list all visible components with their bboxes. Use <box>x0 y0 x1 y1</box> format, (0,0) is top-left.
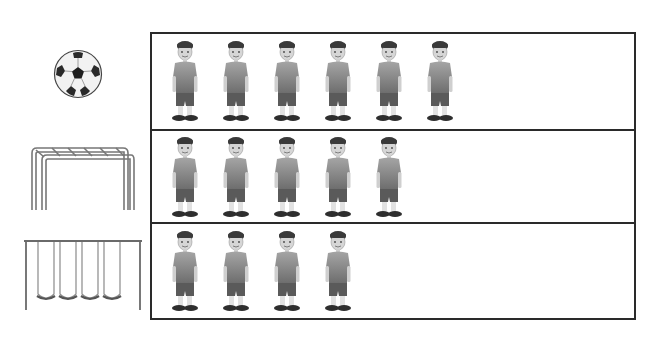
row-label: Swings <box>152 224 153 225</box>
boy-figure-icon <box>271 39 303 125</box>
boy-figure-icon <box>169 39 201 125</box>
boy-figure-icon <box>169 135 201 221</box>
boy-figure-icon <box>220 39 252 125</box>
row-label: Monkey bars <box>152 131 153 132</box>
pictograph-table: Soccer ball Monkey bars Swings <box>150 32 636 320</box>
boy-figure-icon <box>424 39 456 125</box>
boy-figure-icon <box>322 39 354 125</box>
boy-figure-icon <box>322 229 354 315</box>
boy-figure-icon <box>220 135 252 221</box>
boy-figure-icon <box>169 229 201 315</box>
boy-figure-icon <box>373 39 405 125</box>
boy-figure-icon <box>373 135 405 221</box>
boy-figure-icon <box>271 229 303 315</box>
soccer-ball-icon <box>53 49 103 99</box>
boy-figure-icon <box>220 229 252 315</box>
row-monkey-bars: Monkey bars <box>152 129 634 222</box>
monkey-bars-icon <box>28 144 136 214</box>
boy-figure-icon <box>271 135 303 221</box>
row-label: Soccer ball <box>152 34 153 35</box>
swing-set-icon <box>22 236 144 312</box>
row-swings: Swings <box>152 222 634 318</box>
row-soccer-ball: Soccer ball <box>152 34 634 129</box>
boy-figure-icon <box>322 135 354 221</box>
